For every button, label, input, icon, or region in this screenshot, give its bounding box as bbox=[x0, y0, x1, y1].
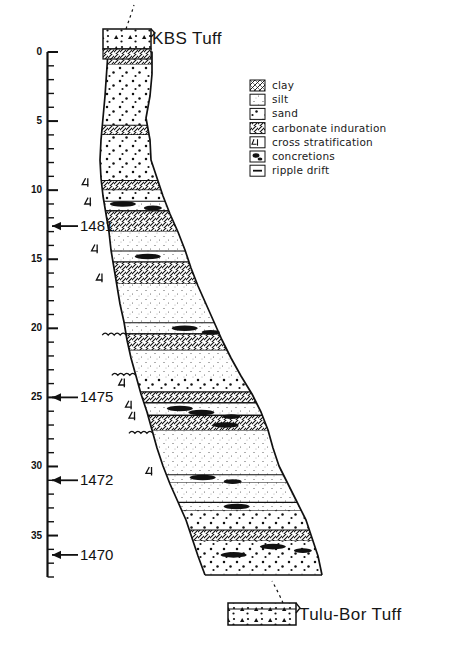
concretion-symbol bbox=[224, 479, 242, 484]
concretion-symbol bbox=[224, 504, 250, 510]
tulu-bor-tuff-label: Tulu-Bor Tuff bbox=[299, 605, 402, 625]
axis-tick-label: 10 bbox=[20, 184, 42, 195]
legend-swatch-group bbox=[250, 80, 265, 176]
legend-swatch-clay bbox=[250, 80, 265, 91]
concretion-symbol bbox=[188, 410, 214, 416]
concretion-symbol bbox=[190, 475, 216, 481]
concretion-symbol bbox=[110, 201, 136, 207]
concretion-symbol bbox=[135, 254, 161, 260]
concretion-symbol bbox=[221, 552, 247, 558]
stratigraphic-figure bbox=[0, 0, 458, 651]
marker-arrow bbox=[52, 393, 78, 401]
legend-swatch-carbonate bbox=[250, 123, 265, 134]
tulu-bor-tuff-marker bbox=[228, 581, 300, 625]
bed-sand bbox=[193, 541, 322, 574]
marker-label: 1481 bbox=[80, 217, 113, 234]
cross-stratification-symbol bbox=[92, 245, 98, 254]
cross-stratification-symbol bbox=[85, 198, 91, 207]
bed-carbonate bbox=[101, 181, 161, 191]
bed-carbonate bbox=[113, 262, 197, 284]
concretion-symbol bbox=[260, 544, 286, 550]
axis-tick-label: 35 bbox=[20, 530, 42, 541]
bed-carbonate bbox=[106, 211, 178, 232]
legend-concretion-glyph bbox=[253, 153, 260, 157]
axis-tick-label: 25 bbox=[20, 391, 42, 402]
cross-stratification-symbol bbox=[119, 379, 125, 388]
tulu-bor-tuff-connector bbox=[272, 581, 283, 603]
marker-arrow bbox=[52, 551, 78, 559]
concretion-symbol bbox=[294, 548, 312, 553]
bed-sand bbox=[182, 511, 309, 530]
cross-stratification-symbol bbox=[125, 401, 131, 410]
bed-carbonate bbox=[126, 334, 227, 351]
kbs-tuff-marker bbox=[103, 5, 155, 59]
legend-label: clay bbox=[272, 79, 294, 91]
bed-carbonate bbox=[148, 415, 268, 430]
legend-label: carbonate induration bbox=[272, 122, 386, 134]
concretion-symbol bbox=[202, 330, 220, 335]
cross-stratification-symbol bbox=[96, 274, 102, 283]
ripple-drift-symbol bbox=[102, 333, 126, 335]
concretion-symbol bbox=[144, 206, 162, 211]
bed-sand bbox=[102, 64, 152, 125]
axis-tick-label: 30 bbox=[20, 460, 42, 471]
legend-label: cross stratification bbox=[272, 136, 373, 148]
bed-sand bbox=[100, 135, 158, 181]
bed-sand bbox=[137, 378, 251, 392]
bed-sand bbox=[102, 190, 165, 201]
legend-concretion-glyph bbox=[258, 157, 263, 160]
marker-arrow bbox=[52, 222, 78, 230]
bed-carbonate bbox=[102, 125, 150, 135]
legend-label: ripple drift bbox=[272, 164, 329, 176]
concretion-symbol bbox=[167, 406, 193, 412]
bed-carbonate bbox=[140, 392, 256, 403]
marker-label: 1472 bbox=[80, 471, 113, 488]
axis-tick-group bbox=[48, 52, 59, 577]
legend-swatch-silt bbox=[250, 94, 265, 105]
kbs-tuff-connector bbox=[126, 5, 134, 29]
axis-tick-label: 0 bbox=[20, 46, 42, 57]
concretion-symbol bbox=[222, 414, 240, 419]
bed-silt bbox=[109, 232, 185, 251]
marker-label: 1475 bbox=[80, 388, 113, 405]
bed-carbonate bbox=[189, 530, 313, 541]
legend-swatch-sand bbox=[250, 108, 265, 119]
legend-label: sand bbox=[272, 107, 298, 119]
bed-ripple-drift bbox=[152, 431, 273, 448]
concretion-symbol bbox=[213, 422, 239, 428]
legend-label: silt bbox=[272, 93, 288, 105]
axis-tick-label: 20 bbox=[20, 322, 42, 333]
bed-silt bbox=[157, 447, 284, 475]
axis-tick-label: 5 bbox=[20, 115, 42, 126]
bed-silt bbox=[170, 483, 298, 502]
marker-arrow-group bbox=[52, 222, 78, 559]
cross-stratification-symbol bbox=[129, 412, 135, 421]
cross-stratification-symbol bbox=[82, 178, 88, 187]
marker-label: 1470 bbox=[80, 546, 113, 563]
kbs-tuff-label: KBS Tuff bbox=[152, 29, 222, 49]
legend-label: concretions bbox=[272, 150, 335, 162]
ripple-drift-symbol bbox=[129, 431, 153, 433]
marker-arrow bbox=[52, 476, 78, 484]
bed-silt bbox=[129, 350, 242, 378]
cross-stratification-symbol bbox=[146, 467, 152, 476]
axis-tick-label: 15 bbox=[20, 253, 42, 264]
concretion-symbol bbox=[172, 326, 198, 332]
depth-axis bbox=[48, 52, 59, 577]
ripple-drift-symbol bbox=[112, 373, 136, 375]
